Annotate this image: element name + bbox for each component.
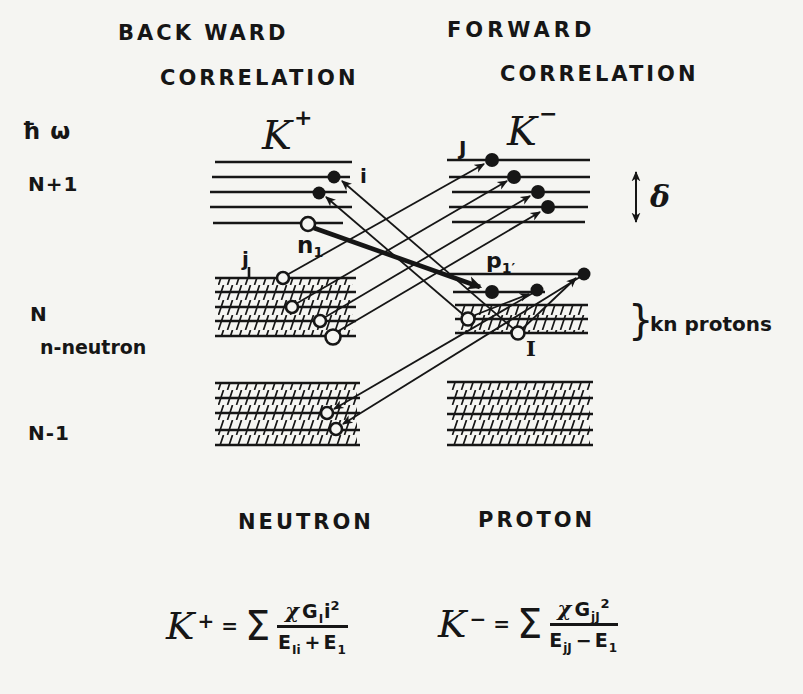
energy-term-2: E bbox=[324, 632, 337, 653]
energy-term-1: E bbox=[549, 630, 562, 651]
chi-symbol: χ bbox=[558, 597, 572, 620]
backward-title-line1: BACK WARD bbox=[118, 21, 288, 45]
operator: + bbox=[305, 632, 321, 653]
k-plus-denominator: E Ii + E 1 bbox=[278, 628, 347, 653]
sigma-sum: Σ bbox=[245, 608, 270, 644]
forward-title-line2: CORRELATION bbox=[500, 62, 699, 86]
left-n-plus-1-levels bbox=[210, 162, 352, 223]
k-minus-denominator: E jJ − E 1 bbox=[549, 626, 618, 651]
neutron-caption: NEUTRON bbox=[238, 510, 374, 534]
g-subscript: I bbox=[319, 613, 323, 626]
particle-i-label: i bbox=[360, 164, 367, 188]
proton-caption: PROTON bbox=[478, 508, 595, 532]
right-n-minus-1-block bbox=[447, 382, 593, 445]
energy-term-1: E bbox=[278, 632, 291, 653]
k-minus-label: K− bbox=[506, 101, 557, 154]
energy-term-2: E bbox=[595, 630, 608, 651]
n-label: N bbox=[30, 302, 48, 326]
hbar-omega-label: ħ ω bbox=[22, 118, 71, 144]
delta-label: δ bbox=[649, 179, 670, 214]
p1-label: p1′ bbox=[486, 248, 515, 276]
backward-title-line2: CORRELATION bbox=[160, 66, 359, 90]
n1-label: n1 bbox=[297, 232, 323, 260]
equals-sign: = bbox=[221, 614, 238, 638]
n-plus-1-label: N+1 bbox=[28, 172, 78, 196]
exponent: 2 bbox=[331, 599, 340, 613]
k-minus-fraction: χ G jJ 2 E jJ − E 1 bbox=[549, 597, 618, 651]
particle-J-label: J bbox=[457, 136, 466, 160]
exponent: 2 bbox=[601, 597, 610, 611]
forward-title-line1: FORWARD bbox=[447, 18, 595, 42]
k-minus-formula-sup: − bbox=[469, 607, 486, 631]
k-plus-formula-lhs: K+ bbox=[166, 607, 214, 645]
energy-subscript-2: 1 bbox=[609, 642, 617, 655]
k-plus-label: K+ bbox=[261, 105, 312, 158]
k-plus-fraction: χ G I i 2 E Ii + E 1 bbox=[277, 599, 347, 653]
figure-page: BACK WARD CORRELATION FORWARD CORRELATIO… bbox=[0, 0, 803, 694]
k-minus-formula-lhs: K− bbox=[438, 605, 486, 643]
operator: − bbox=[576, 630, 592, 651]
energy-subscript-2: 1 bbox=[337, 644, 345, 657]
k-minus-formula: K− = Σ χ G jJ 2 E jJ − E 1 bbox=[438, 597, 618, 651]
sigma-sum: Σ bbox=[517, 606, 542, 642]
neutron-particle-dots bbox=[313, 171, 341, 200]
equals-sign: = bbox=[493, 612, 510, 636]
n-minus-1-label: N-1 bbox=[28, 421, 70, 445]
g-factor: G bbox=[574, 599, 590, 620]
hole-I-label: I bbox=[526, 336, 536, 361]
level-diagram: BACK WARD CORRELATION FORWARD CORRELATIO… bbox=[0, 0, 803, 694]
k-plus-formula: K+ = Σ χ G I i 2 E Ii + E 1 bbox=[166, 599, 348, 653]
k-plus-formula-sup: + bbox=[197, 609, 214, 633]
k-plus-numerator: χ G I i 2 bbox=[277, 599, 347, 628]
g-factor: G bbox=[302, 601, 318, 622]
n-neutron-label: n-neutron bbox=[40, 336, 146, 358]
hole-j-label: j bbox=[241, 247, 249, 271]
chi-symbol: χ bbox=[285, 599, 299, 622]
energy-subscript-1: Ii bbox=[292, 644, 301, 657]
k-minus-numerator: χ G jJ 2 bbox=[550, 597, 618, 626]
energy-subscript-1: jJ bbox=[563, 642, 572, 655]
right-n-plus-1-levels bbox=[447, 160, 590, 222]
kn-protons-label: kn protons bbox=[650, 312, 772, 336]
g-subscript: jJ bbox=[591, 611, 600, 624]
proton-particle-dots bbox=[485, 153, 591, 299]
